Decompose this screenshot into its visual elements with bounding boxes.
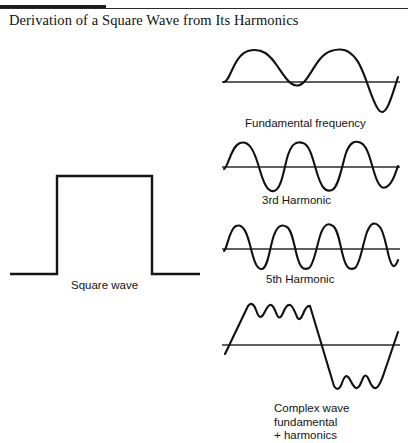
- caption-third-harmonic: 3rd Harmonic: [262, 194, 331, 208]
- figure-title: Derivation of a Square Wave from Its Har…: [9, 12, 399, 29]
- panel-fundamental: [218, 47, 402, 117]
- complex-wave-plot: [218, 293, 402, 399]
- fifth-harmonic-wave-path: [224, 224, 398, 270]
- square-wave-path: [10, 176, 200, 274]
- square-wave-plot: [4, 165, 204, 285]
- panel-complex-wave: [218, 293, 402, 399]
- caption-square-wave: Square wave: [71, 279, 138, 293]
- complex-wave-path: [225, 304, 398, 389]
- third-harmonic-plot: [218, 137, 402, 197]
- panel-fifth-harmonic: [218, 218, 402, 278]
- fifth-harmonic-plot: [218, 218, 402, 278]
- caption-fifth-harmonic: 5th Harmonic: [266, 273, 334, 287]
- caption-fundamental: Fundamental frequency: [245, 117, 366, 131]
- fundamental-wave-path: [224, 50, 398, 113]
- fundamental-plot: [218, 47, 402, 117]
- caption-complex-wave: Complex wave fundamental + harmonics: [274, 402, 349, 443]
- title-rule-thin: [0, 8, 408, 9]
- panel-third-harmonic: [218, 137, 402, 197]
- panel-square-wave: [4, 165, 204, 285]
- figure-square-wave-harmonics: Derivation of a Square Wave from Its Har…: [0, 0, 408, 443]
